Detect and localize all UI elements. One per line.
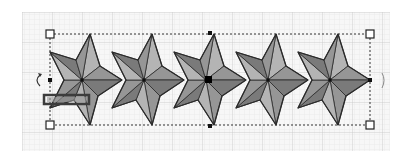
drawing-canvas[interactable] — [0, 0, 420, 158]
left-mid-point[interactable] — [48, 78, 52, 82]
top-mid-point[interactable] — [208, 31, 212, 35]
resize-handle-top-left[interactable] — [46, 30, 54, 38]
resize-handle-bottom-left[interactable] — [46, 121, 54, 129]
resize-handle-top-right[interactable] — [366, 30, 374, 38]
bottom-mid-point[interactable] — [208, 124, 212, 128]
center-point[interactable] — [205, 76, 212, 83]
right-tip-point[interactable] — [368, 78, 372, 82]
resize-handle-bottom-right[interactable] — [366, 121, 374, 129]
